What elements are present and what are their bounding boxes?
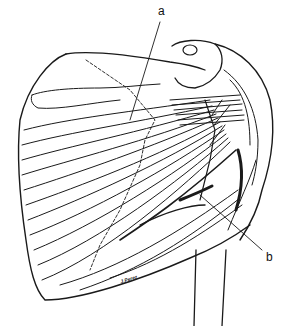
shoulder-drawing [0, 0, 292, 326]
label-a: a [158, 4, 165, 18]
label-b: b [266, 250, 273, 264]
